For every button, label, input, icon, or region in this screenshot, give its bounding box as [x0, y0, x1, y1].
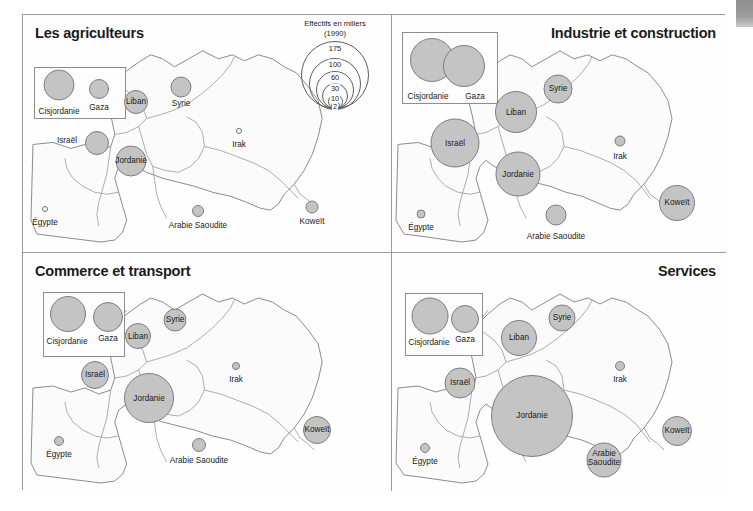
label-egypte: Égypte	[32, 219, 58, 228]
label-irak: Irak	[613, 153, 627, 162]
label-koweit: Koweït	[304, 426, 329, 435]
legend-value-30: 30	[330, 84, 340, 93]
bubble-cisjordanie	[50, 296, 86, 332]
label-egypte: Égypte	[412, 458, 438, 467]
label-arabie-saoudite: Arabie Saoudite	[169, 222, 227, 231]
panel-grid: Les agriculteurs Cisjordanie Gaza Liban …	[22, 14, 725, 490]
panel-industrie: Industrie et construction Cisjordanie Ga…	[392, 15, 726, 253]
label-egypte: Égypte	[46, 451, 72, 460]
bubble-gaza	[93, 302, 123, 332]
panel-agriculteurs: Les agriculteurs Cisjordanie Gaza Liban …	[23, 15, 392, 253]
label-arabie-saoudite-line2: Saoudite	[588, 458, 620, 467]
label-liban: Liban	[126, 98, 146, 107]
label-jordanie: Jordanie	[516, 412, 547, 421]
label-syrie: Syrie	[553, 314, 572, 323]
label-israel: Israël	[57, 137, 77, 146]
label-liban: Liban	[128, 333, 148, 342]
label-arabie-saoudite: Arabie Saoudite	[527, 233, 585, 242]
panel-title-industrie: Industrie et construction	[551, 25, 716, 41]
label-irak: Irak	[613, 376, 627, 385]
bubble-irak	[236, 128, 242, 134]
label-irak: Irak	[229, 376, 243, 385]
bubble-arabie-saoudite	[546, 205, 567, 226]
inset-label-gaza: Gaza	[465, 92, 485, 101]
bubble-irak	[615, 136, 626, 147]
legend-value-2: 2	[332, 102, 338, 111]
label-irak: Irak	[232, 141, 246, 150]
bubble-irak	[615, 361, 625, 371]
inset-label-cisjordanie: Cisjordanie	[47, 337, 88, 346]
bubble-israel	[85, 131, 109, 155]
bubble-egypte	[54, 436, 64, 446]
bubble-koweit	[306, 201, 319, 214]
label-jordanie: Jordanie	[115, 157, 146, 166]
legend-value-60: 60	[330, 73, 340, 82]
map-services	[392, 253, 726, 491]
bubble-gaza	[89, 79, 109, 99]
panel-title-commerce: Commerce et transport	[35, 263, 190, 279]
label-syrie: Syrie	[166, 316, 185, 325]
inset-label-cisjordanie: Cisjordanie	[39, 107, 80, 116]
inset-label-cisjordanie: Cisjordanie	[408, 92, 449, 101]
panel-title-services: Services	[658, 263, 716, 279]
label-koweit: Koweït	[664, 199, 689, 208]
bubble-irak	[232, 362, 240, 370]
label-israel: Israël	[445, 140, 465, 149]
legend-value-175: 175	[328, 44, 342, 53]
legend-effectifs: Effectifs en millers (1990) 175 100 60 3…	[287, 19, 383, 139]
legend-title-line2: (1990)	[287, 29, 383, 39]
bubble-arabie-saoudite	[192, 438, 206, 452]
bubble-egypte	[417, 210, 426, 219]
scanner-artifact	[736, 0, 753, 27]
label-koweit: Koweït	[664, 427, 689, 436]
inset-label-gaza: Gaza	[89, 103, 109, 112]
label-liban: Liban	[506, 109, 526, 118]
label-jordanie: Jordanie	[502, 171, 533, 180]
inset-label-gaza: Gaza	[455, 335, 475, 344]
label-egypte: Égypte	[408, 224, 434, 233]
label-arabie-saoudite: Arabie Saoudite	[588, 449, 620, 467]
bubble-egypte	[42, 206, 48, 212]
panel-title-agriculteurs: Les agriculteurs	[35, 25, 144, 41]
bubble-gaza	[443, 45, 485, 87]
bubble-gaza	[451, 305, 479, 333]
label-jordanie: Jordanie	[133, 395, 164, 404]
label-koweit: Koweït	[299, 218, 324, 227]
legend-title: Effectifs en millers (1990)	[287, 19, 383, 39]
label-syrie: Syrie	[549, 85, 568, 94]
bubble-cisjordanie	[412, 298, 449, 335]
label-syrie: Syrie	[172, 100, 191, 109]
figure-root: Les agriculteurs Cisjordanie Gaza Liban …	[0, 0, 753, 511]
label-israel: Israël	[450, 379, 470, 388]
panel-services: Services Cisjordanie Gaza Liban Syrie Ir…	[392, 253, 726, 491]
inset-label-gaza: Gaza	[98, 334, 118, 343]
label-liban: Liban	[509, 334, 529, 343]
label-israel: Israël	[85, 371, 105, 380]
inset-label-cisjordanie: Cisjordanie	[409, 338, 450, 347]
bubble-cisjordanie	[44, 70, 75, 101]
bubble-syrie	[171, 77, 192, 98]
legend-title-line1: Effectifs en millers	[287, 19, 383, 29]
map-outline-svg	[392, 253, 726, 491]
bubble-egypte	[420, 443, 430, 453]
label-arabie-saoudite-line1: Arabie	[592, 449, 616, 458]
legend-value-100: 100	[328, 60, 342, 69]
label-arabie-saoudite: Arabie Saoudite	[170, 457, 228, 466]
panel-commerce: Commerce et transport Cisjordanie Gaza L…	[23, 253, 392, 491]
bubble-arabie-saoudite	[192, 205, 204, 217]
